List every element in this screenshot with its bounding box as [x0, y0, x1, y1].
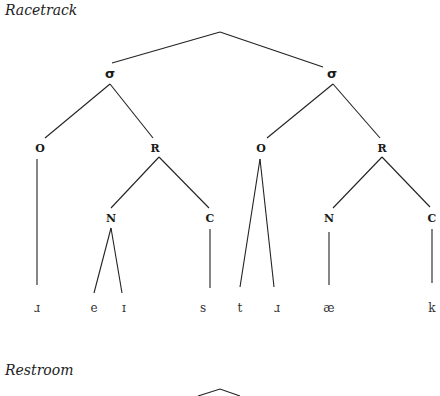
edge-onset2-t: [240, 159, 260, 287]
segment-ae: æ: [323, 301, 334, 315]
edge-rhyme1-nucleus: [111, 157, 159, 208]
node-onset-1: O: [35, 142, 45, 155]
node-sigma-2: σ: [327, 66, 337, 81]
edge-restroom-apex: [198, 389, 240, 396]
edge-nucleus1-e: [94, 228, 111, 293]
tree-edges-racetrack: [37, 32, 432, 293]
segment-k: k: [428, 301, 436, 315]
segment-t: t: [238, 301, 243, 315]
edge-rhyme2-coda: [382, 157, 430, 207]
tree-edges-restroom: [198, 389, 240, 396]
segment-i: ɪ: [122, 301, 126, 315]
edge-sigma2-onset: [267, 84, 333, 138]
segment-e: e: [90, 301, 97, 315]
segment-r-1: ɹ: [34, 301, 40, 315]
node-rhyme-2: R: [377, 142, 387, 155]
edge-nucleus1-i: [111, 228, 122, 293]
node-coda-2: C: [428, 212, 437, 225]
node-rhyme-1: R: [150, 142, 160, 155]
segment-r-2: ɹ: [274, 301, 280, 315]
tree-nodes-racetrack: σ σ O R O R N C N C: [35, 66, 436, 225]
edge-root-sigma2: [220, 32, 323, 67]
edge-sigma1-rhyme: [110, 84, 153, 138]
edge-rhyme1-coda: [159, 157, 209, 208]
node-nucleus-2: N: [324, 212, 334, 225]
segment-s: s: [200, 301, 206, 315]
node-sigma-1: σ: [105, 66, 115, 81]
syllable-tree-diagram: σ σ O R O R N C N C ɹ e ɪ s t ɹ æ k: [0, 0, 440, 396]
node-onset-2: O: [256, 142, 266, 155]
node-coda-1: C: [206, 212, 215, 225]
tree-segments-racetrack: ɹ e ɪ s t ɹ æ k: [34, 301, 436, 315]
edge-onset2-r: [260, 159, 274, 287]
edge-sigma2-rhyme: [333, 84, 380, 138]
edge-sigma1-onset: [45, 84, 110, 138]
edge-rhyme2-nucleus: [333, 157, 382, 208]
node-nucleus-1: N: [106, 212, 116, 225]
edge-root-sigma1: [112, 32, 220, 63]
